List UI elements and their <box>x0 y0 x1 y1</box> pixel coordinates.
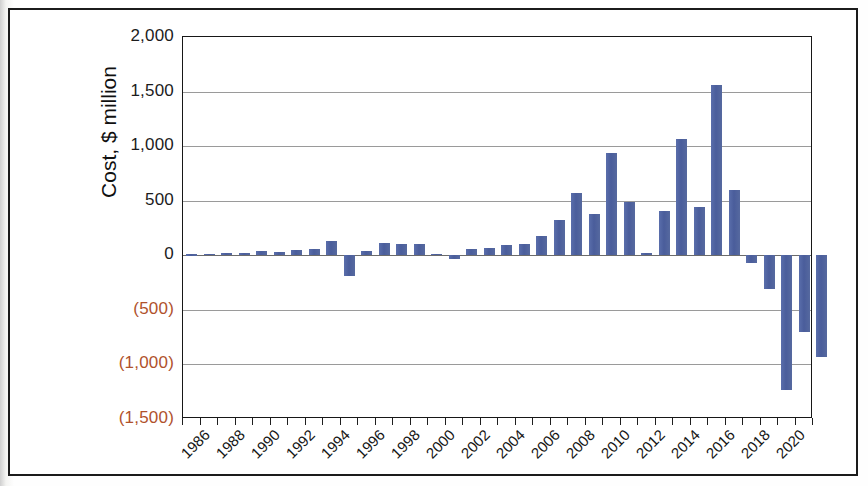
x-axis-tick-mark <box>585 418 586 425</box>
bar <box>554 220 565 255</box>
bar <box>676 139 687 256</box>
x-axis-tick-mark <box>777 418 778 425</box>
bar <box>781 255 792 389</box>
x-axis-tick-mark <box>445 418 446 425</box>
bar <box>624 202 635 255</box>
bar <box>414 244 425 255</box>
x-axis-tick-mark <box>340 418 341 425</box>
x-axis-tick-mark <box>795 418 796 425</box>
bar <box>571 193 582 255</box>
bar <box>344 255 355 276</box>
bar <box>729 190 740 255</box>
x-axis-tick-mark <box>200 418 201 425</box>
x-axis-tick-label: 2004 <box>492 426 528 462</box>
x-axis-tick-label: 1988 <box>212 426 248 462</box>
bar <box>449 255 460 258</box>
bar <box>379 243 390 256</box>
bar <box>204 254 215 256</box>
x-axis-tick-mark <box>427 418 428 425</box>
scanned-page: Cost, $ million 2,0001,5001,0005000(500)… <box>0 0 868 486</box>
x-axis-tick-mark <box>725 418 726 425</box>
x-axis-tick-label: 2000 <box>422 426 458 462</box>
bar <box>274 252 285 255</box>
bar <box>466 249 477 256</box>
bar <box>641 253 652 256</box>
x-axis-tick-label: 1994 <box>317 426 353 462</box>
x-axis-tick-mark <box>235 418 236 425</box>
x-axis-tick-mark <box>497 418 498 425</box>
x-axis-tick-mark <box>270 418 271 425</box>
bar <box>309 249 320 255</box>
x-axis-tick-label: 1996 <box>352 426 388 462</box>
bar <box>711 85 722 255</box>
x-axis-tick-mark <box>462 418 463 425</box>
x-axis-tick-mark <box>322 418 323 425</box>
x-axis-tick-mark <box>602 418 603 425</box>
bar <box>764 255 775 289</box>
x-axis-tick-label: 2006 <box>527 426 563 462</box>
bar <box>519 244 530 255</box>
bar <box>256 251 267 255</box>
bar-series <box>183 37 811 417</box>
x-axis-tick-label: 1986 <box>177 426 213 462</box>
bar <box>606 153 617 255</box>
y-axis-tick-label: (1,000) <box>119 353 174 373</box>
x-axis-tick-label: 2008 <box>562 426 598 462</box>
bar <box>659 211 670 255</box>
bar <box>396 244 407 255</box>
x-axis-tick-mark <box>742 418 743 425</box>
x-axis-tick-mark <box>252 418 253 425</box>
bar <box>291 250 302 255</box>
bar <box>484 248 495 256</box>
x-axis-tick-label: 2020 <box>772 426 808 462</box>
bar <box>589 214 600 255</box>
x-axis-tick-mark <box>655 418 656 425</box>
bar <box>239 253 250 256</box>
y-axis-tick-label: (500) <box>133 299 174 319</box>
x-axis-tick-mark <box>410 418 411 425</box>
x-axis-tick-label: 2012 <box>632 426 668 462</box>
x-axis-tick-label: 1998 <box>387 426 423 462</box>
x-axis-tick-mark <box>620 418 621 425</box>
bar-chart: Cost, $ million 2,0001,5001,0005000(500)… <box>0 0 868 486</box>
x-axis-tick-mark <box>217 418 218 425</box>
x-axis-tick-label: 2014 <box>667 426 703 462</box>
bar <box>361 251 372 255</box>
x-axis-tick-mark <box>690 418 691 425</box>
bar <box>221 253 232 255</box>
x-axis-tick-mark <box>392 418 393 425</box>
x-axis-tick-mark <box>305 418 306 425</box>
y-axis-tick-labels: 2,0001,5001,0005000(500)(1,000)(1,500) <box>96 36 174 418</box>
x-axis-tick-label: 2016 <box>702 426 738 462</box>
y-axis-tick-label: (1,500) <box>119 408 174 428</box>
bar <box>186 254 197 256</box>
x-axis-tick-mark <box>515 418 516 425</box>
plot-area <box>182 36 812 418</box>
x-axis-tick-mark <box>760 418 761 425</box>
x-axis-tick-labels: 1986198819901992199419961998200020022004… <box>182 426 822 482</box>
x-axis-tick-mark <box>287 418 288 425</box>
y-axis-tick-label: 0 <box>164 244 174 264</box>
x-axis-tick-label: 2002 <box>457 426 493 462</box>
bar <box>816 255 827 357</box>
x-axis-tick-mark <box>567 418 568 425</box>
x-axis-tick-mark <box>707 418 708 425</box>
x-axis-tick-mark <box>182 418 183 425</box>
bar <box>746 255 757 263</box>
x-axis-tick-mark <box>357 418 358 425</box>
bar <box>694 207 705 255</box>
bar <box>536 236 547 255</box>
y-axis-tick-label: 1,000 <box>130 135 174 155</box>
y-axis-tick-label: 500 <box>145 190 174 210</box>
x-axis-tick-label: 2018 <box>737 426 773 462</box>
bar <box>799 255 810 331</box>
x-axis-tick-mark <box>812 418 813 425</box>
x-axis-tick-mark <box>532 418 533 425</box>
x-axis-tick-label: 2010 <box>597 426 633 462</box>
x-axis-tick-mark <box>672 418 673 425</box>
x-axis-tick-label: 1992 <box>282 426 318 462</box>
bar <box>326 241 337 255</box>
y-axis-tick-label: 1,500 <box>130 81 174 101</box>
bar <box>501 245 512 255</box>
x-axis-tick-mark <box>550 418 551 425</box>
